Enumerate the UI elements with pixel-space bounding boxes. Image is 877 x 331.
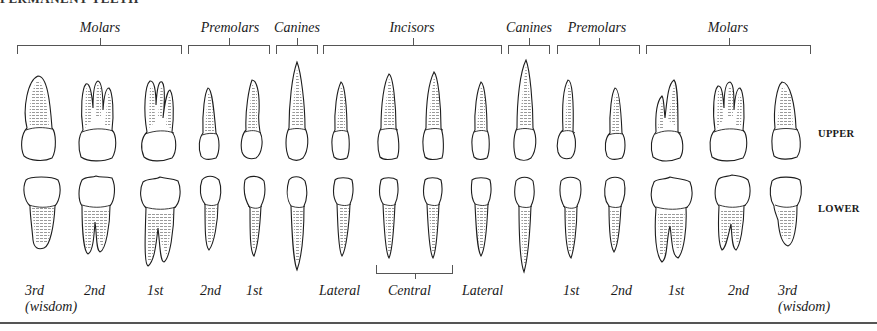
lower-lateral-incisor-right bbox=[471, 178, 491, 256]
upper-3rd-molar-left bbox=[22, 76, 56, 160]
position-label: 2nd bbox=[84, 283, 105, 299]
upper-2nd-molar-right bbox=[710, 82, 747, 161]
position-label: 3rd(wisdom) bbox=[778, 283, 830, 315]
position-label: Central bbox=[388, 283, 431, 299]
upper-2nd-premolar-right bbox=[605, 88, 625, 159]
position-label: Lateral bbox=[319, 283, 360, 299]
upper-2nd-premolar-left bbox=[199, 88, 219, 159]
row-label-lower: LOWER bbox=[818, 203, 860, 214]
bottom-divider bbox=[0, 322, 877, 324]
lower-canine-right bbox=[515, 177, 534, 272]
upper-1st-molar-right bbox=[651, 80, 682, 161]
position-label: Lateral bbox=[462, 283, 503, 299]
lower-central-incisor-right bbox=[424, 178, 442, 258]
lower-canine-left bbox=[287, 177, 307, 270]
upper-1st-premolar-left bbox=[241, 80, 262, 159]
position-label: 2nd bbox=[200, 283, 221, 299]
position-label: 1st bbox=[147, 283, 163, 299]
teeth-illustration bbox=[0, 0, 877, 331]
upper-1st-molar-left bbox=[142, 81, 176, 161]
lower-1st-premolar-left bbox=[244, 176, 265, 256]
row-label-upper: UPPER bbox=[818, 128, 855, 139]
lower-2nd-molar-right bbox=[715, 175, 750, 250]
lower-1st-premolar-right bbox=[560, 177, 581, 258]
lower-lateral-incisor-left bbox=[334, 178, 353, 256]
lower-2nd-molar-left bbox=[79, 176, 114, 254]
central-incisor-bracket bbox=[376, 265, 453, 274]
upper-central-incisor-left bbox=[378, 74, 399, 159]
position-label: 2nd bbox=[611, 283, 632, 299]
position-label: 2nd bbox=[728, 283, 749, 299]
upper-lateral-incisor-right bbox=[472, 82, 489, 159]
lower-3rd-molar-left bbox=[24, 177, 60, 249]
lower-2nd-premolar-left bbox=[200, 176, 220, 250]
position-label: 1st bbox=[563, 283, 579, 299]
position-label: 1st bbox=[668, 283, 684, 299]
lower-1st-molar-left bbox=[141, 177, 180, 266]
upper-central-incisor-right bbox=[423, 72, 444, 159]
upper-3rd-molar-right bbox=[772, 82, 800, 159]
upper-2nd-molar-left bbox=[79, 81, 116, 161]
lower-central-incisor-left bbox=[380, 178, 398, 258]
upper-canine-left bbox=[286, 62, 308, 160]
lower-1st-molar-right bbox=[651, 177, 692, 262]
upper-canine-right bbox=[514, 60, 536, 160]
position-label: 1st bbox=[246, 283, 262, 299]
position-label: 3rd(wisdom) bbox=[25, 283, 77, 315]
upper-1st-premolar-right bbox=[557, 80, 575, 159]
upper-lateral-incisor-left bbox=[332, 82, 349, 159]
lower-3rd-molar-right bbox=[770, 177, 801, 246]
lower-2nd-premolar-right bbox=[605, 177, 625, 252]
